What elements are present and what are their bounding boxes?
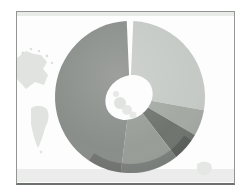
donut-chart bbox=[17, 12, 234, 182]
report-page bbox=[0, 0, 252, 193]
chart-frame bbox=[16, 11, 235, 185]
